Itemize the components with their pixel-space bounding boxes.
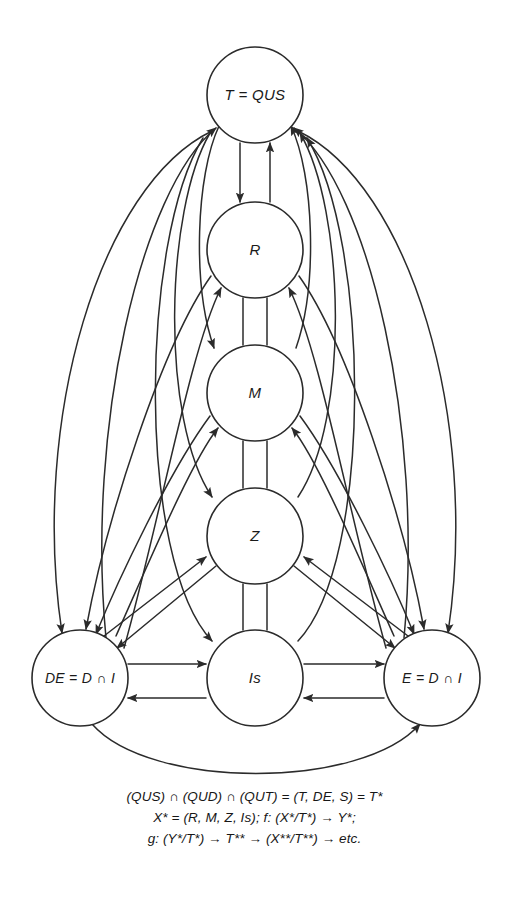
node-M-label: M bbox=[249, 384, 262, 401]
edge-T-to-Z bbox=[175, 133, 212, 497]
node-M[interactable]: M bbox=[207, 345, 303, 441]
edge-Z-to-E bbox=[294, 566, 395, 648]
edge-DE-to-E-arc bbox=[92, 724, 420, 774]
node-E-label: E = D ∩ I bbox=[402, 670, 462, 686]
node-Z-label: Z bbox=[249, 527, 260, 544]
caption-line-3: g: (Y*/T*) → T** → (X**/T**) → etc. bbox=[0, 828, 509, 849]
node-Is-label: Is bbox=[249, 669, 261, 686]
node-R[interactable]: R bbox=[207, 202, 303, 298]
node-DE[interactable]: DE = D ∩ I bbox=[32, 630, 128, 726]
edge-Z-to-T bbox=[298, 133, 335, 497]
edge-DE-to-Z bbox=[104, 557, 206, 636]
node-Is[interactable]: Is bbox=[207, 630, 303, 726]
graph-canvas: T = QUS R M Z DE = D ∩ I bbox=[0, 0, 509, 903]
node-R-label: R bbox=[249, 241, 260, 258]
edge-E-to-R bbox=[289, 288, 386, 648]
caption-block: (QUS) ∩ (QUD) ∩ (QUT) = (T, DE, S) = T* … bbox=[0, 786, 509, 849]
node-layer: T = QUS R M Z DE = D ∩ I bbox=[32, 47, 480, 726]
edge-T-to-DE bbox=[54, 131, 212, 633]
edge-T-to-E bbox=[298, 131, 456, 633]
caption-line-1: (QUS) ∩ (QUD) ∩ (QUT) = (T, DE, S) = T* bbox=[0, 786, 509, 807]
node-E[interactable]: E = D ∩ I bbox=[384, 630, 480, 726]
node-T[interactable]: T = QUS bbox=[207, 47, 303, 143]
edge-Z-to-DE bbox=[117, 566, 216, 648]
node-Z[interactable]: Z bbox=[207, 488, 303, 584]
node-DE-label: DE = D ∩ I bbox=[45, 670, 115, 686]
edge-DE-to-T bbox=[102, 128, 216, 638]
edge-E-to-Z bbox=[304, 557, 408, 636]
edge-M-to-DE bbox=[96, 416, 210, 634]
edge-M-to-E bbox=[300, 416, 414, 634]
caption-line-2: X* = (R, M, Z, Is); f: (X*/T*) → Y*; bbox=[0, 807, 509, 828]
edge-DE-to-R bbox=[124, 288, 221, 648]
node-T-label: T = QUS bbox=[225, 86, 286, 103]
diagram-root: T = QUS R M Z DE = D ∩ I bbox=[0, 0, 509, 903]
